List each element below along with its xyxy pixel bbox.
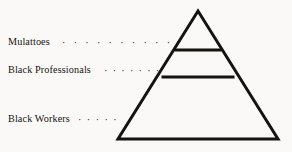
tier-label-mulattoes: Mulattoes — [8, 37, 50, 47]
tier-label-black-professionals: Black Professionals — [8, 65, 91, 75]
leader-dots-mulattoes: · · · · · · · · · · · · · · · · · · — [62, 39, 174, 47]
leader-dots-black-workers: · · · · · · · — [78, 116, 122, 124]
tier-label-black-workers: Black Workers — [8, 114, 70, 124]
pyramid-outline — [118, 11, 278, 139]
pyramid-figure: Mulattoes · · · · · · · · · · · · · · · … — [0, 0, 292, 152]
pyramid-shape — [0, 0, 292, 152]
leader-dots-black-professionals: · · · · · · · · · — [104, 67, 160, 75]
